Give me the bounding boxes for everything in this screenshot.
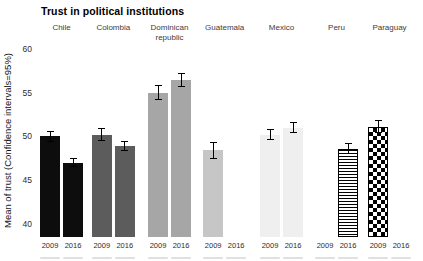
- bottom-crop-mark: [92, 257, 112, 259]
- error-cap-bottom-colombia-2016: [121, 150, 128, 151]
- year-label-colombia-2016: 2016: [112, 241, 138, 250]
- bottom-crop-mark: [148, 257, 168, 259]
- bar-guatemala-2009: [203, 150, 223, 237]
- y-tick-label-40: 40: [6, 219, 32, 229]
- bottom-crop-mark: [171, 257, 191, 259]
- error-cap-bottom-dominican-republic-2009: [155, 99, 162, 100]
- bar-chile-2009: [40, 136, 60, 237]
- y-tick-label-60: 60: [6, 44, 32, 54]
- error-cap-top-dominican-republic-2016: [178, 73, 185, 74]
- error-cap-bottom-chile-2016: [70, 166, 77, 167]
- bar-peru-2016: [338, 149, 358, 237]
- error-bar-guatemala-2009: [213, 142, 214, 159]
- error-cap-bottom-mexico-2016: [290, 132, 297, 133]
- bottom-crop-mark: [391, 257, 411, 259]
- error-cap-bottom-colombia-2009: [98, 140, 105, 141]
- bar-mexico-2009: [260, 135, 280, 237]
- bar-paraguay-2009: [368, 127, 388, 237]
- error-cap-top-mexico-2016: [290, 122, 297, 123]
- bottom-crop-mark: [260, 257, 280, 259]
- group-label-paraguay: Paraguay: [359, 23, 421, 33]
- error-cap-top-peru-2016: [345, 143, 352, 144]
- bar-mexico-2016: [283, 128, 303, 237]
- bottom-crop-mark: [226, 257, 246, 259]
- error-cap-bottom-paraguay-2009: [375, 132, 382, 133]
- bottom-crop-mark: [283, 257, 303, 259]
- year-label-chile-2016: 2016: [60, 241, 86, 250]
- chart-title: Trust in political institutions: [41, 5, 184, 17]
- year-label-mexico-2016: 2016: [280, 241, 306, 250]
- group-label-mexico: Mexico: [251, 23, 313, 33]
- y-tick-label-55: 55: [6, 88, 32, 98]
- group-label-dominican-republic: Dominican republic: [141, 23, 199, 44]
- error-cap-bottom-mexico-2009: [267, 139, 274, 140]
- bottom-crop-mark: [338, 257, 358, 259]
- bar-dominican-republic-2016: [171, 80, 191, 237]
- bottom-crop-mark: [315, 257, 335, 259]
- year-label-dominican-republic-2016: 2016: [168, 241, 194, 250]
- error-cap-top-colombia-2009: [98, 128, 105, 129]
- bottom-crop-mark: [368, 257, 388, 259]
- y-tick-label-45: 45: [6, 175, 32, 185]
- bottom-crop-mark: [40, 257, 60, 259]
- error-cap-top-mexico-2009: [267, 129, 274, 130]
- year-label-peru-2016: 2016: [335, 241, 361, 250]
- error-cap-bottom-chile-2009: [47, 141, 54, 142]
- group-label-colombia: Colombia: [82, 23, 144, 33]
- error-cap-top-chile-2009: [47, 131, 54, 132]
- bottom-crop-mark: [63, 257, 83, 259]
- group-label-guatemala: Guatemala: [194, 23, 256, 33]
- year-label-guatemala-2016: 2016: [223, 241, 249, 250]
- bar-colombia-2016: [115, 146, 135, 237]
- error-bar-dominican-republic-2009: [158, 85, 159, 101]
- error-cap-top-guatemala-2009: [210, 142, 217, 143]
- bar-chile-2016: [63, 163, 83, 237]
- bottom-crop-mark: [203, 257, 223, 259]
- trust-bar-chart: Trust in political institutions Mean of …: [0, 0, 423, 261]
- bar-dominican-republic-2009: [148, 93, 168, 237]
- error-cap-bottom-peru-2016: [345, 153, 352, 154]
- bar-colombia-2009: [92, 135, 112, 237]
- bottom-crop-mark: [115, 257, 135, 259]
- error-cap-top-paraguay-2009: [375, 120, 382, 121]
- year-label-paraguay-2016: 2016: [388, 241, 414, 250]
- error-cap-bottom-guatemala-2009: [210, 158, 217, 159]
- error-cap-bottom-dominican-republic-2016: [178, 86, 185, 87]
- y-tick-label-50: 50: [6, 131, 32, 141]
- error-bar-dominican-republic-2016: [181, 73, 182, 87]
- error-cap-top-colombia-2016: [121, 141, 128, 142]
- error-cap-top-chile-2016: [70, 158, 77, 159]
- error-cap-top-dominican-republic-2009: [155, 85, 162, 86]
